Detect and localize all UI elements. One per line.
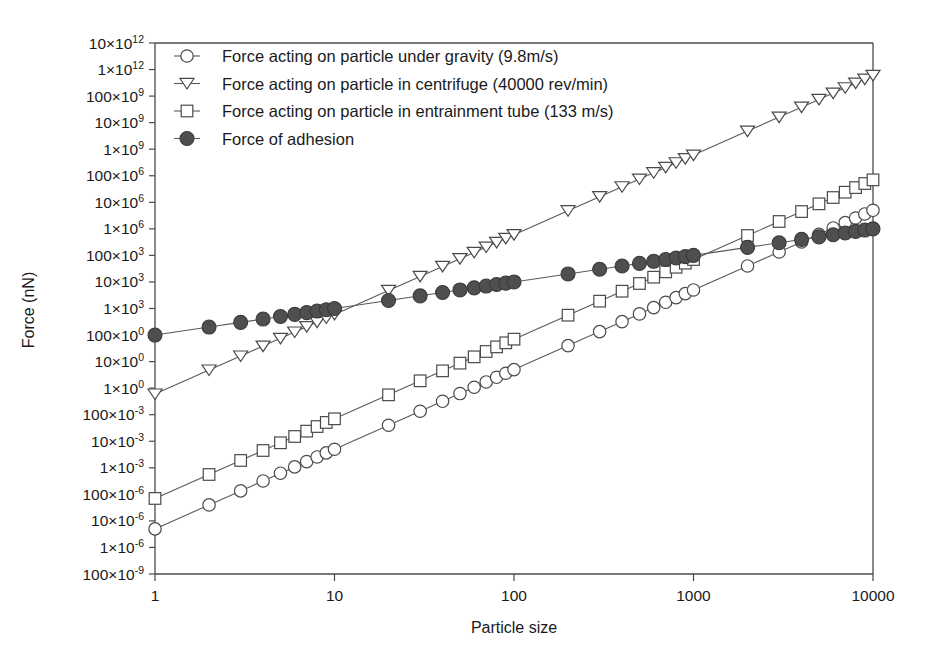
- legend-label: Force acting on particle in entrainment …: [222, 102, 614, 120]
- marker-open-circle: [508, 363, 520, 375]
- marker-open-circle: [328, 443, 340, 455]
- marker-open-square: [827, 192, 839, 204]
- y-tick-label: 10×10-3: [91, 431, 144, 450]
- marker-open-circle: [593, 325, 605, 337]
- marker-open-square: [203, 469, 215, 481]
- y-tick-label: 1×109: [103, 139, 144, 158]
- marker-open-square: [275, 437, 287, 449]
- y-tick-label: 10×106: [95, 192, 145, 211]
- marker-open-square: [289, 431, 301, 443]
- y-tick-label: 10×100: [95, 351, 145, 370]
- marker-open-square: [468, 351, 480, 363]
- x-axis-ticks: 110100100010000: [151, 574, 895, 604]
- y-tick-label: 1×10-6: [100, 537, 144, 556]
- marker-filled-circle: [382, 294, 396, 308]
- y-tick-label: 100×100: [86, 325, 144, 344]
- marker-open-triangle-down: [647, 168, 661, 179]
- marker-open-square: [414, 375, 426, 387]
- marker-open-triangle-down: [148, 389, 162, 400]
- x-tick-label: 1000: [676, 587, 711, 604]
- x-tick-label: 100: [501, 587, 527, 604]
- marker-open-triangle-down: [741, 126, 755, 137]
- marker-open-circle: [274, 467, 286, 479]
- y-tick-label: 1×1012: [97, 59, 144, 78]
- marker-open-triangle-down: [453, 254, 467, 265]
- marker-open-square: [508, 333, 520, 345]
- marker-open-triangle-down: [273, 333, 287, 344]
- legend-entry-2: Force acting on particle in centrifuge (…: [174, 75, 608, 93]
- marker-filled-circle: [561, 267, 575, 281]
- marker-filled-circle: [234, 315, 248, 329]
- x-axis-title: Particle size: [471, 619, 557, 636]
- marker-filled-circle: [273, 309, 287, 323]
- series-1: [149, 204, 879, 535]
- y-tick-label: 100×10-9: [83, 564, 145, 583]
- y-tick-label: 10×103: [95, 271, 145, 290]
- marker-open-square: [796, 206, 808, 218]
- marker-open-circle: [687, 284, 699, 296]
- marker-open-circle: [633, 308, 645, 320]
- marker-open-square: [773, 216, 785, 228]
- y-tick-label: 100×10-6: [83, 484, 145, 503]
- marker-open-circle: [468, 381, 480, 393]
- marker-filled-circle: [741, 240, 755, 254]
- marker-open-square: [634, 278, 646, 290]
- marker-open-square: [257, 445, 269, 457]
- marker-filled-circle: [812, 230, 826, 244]
- marker-filled-circle: [615, 259, 629, 273]
- marker-open-circle: [436, 395, 448, 407]
- marker-filled-circle: [436, 286, 450, 300]
- marker-open-circle: [181, 50, 193, 62]
- legend-label: Force of adhesion: [222, 130, 354, 148]
- marker-open-circle: [203, 499, 215, 511]
- marker-filled-circle: [593, 262, 607, 276]
- y-tick-label: 1×106: [103, 218, 144, 237]
- marker-open-triangle-down: [288, 327, 302, 338]
- marker-open-square: [813, 198, 825, 210]
- marker-open-circle: [867, 204, 879, 216]
- marker-open-circle: [454, 387, 466, 399]
- marker-open-circle: [562, 339, 574, 351]
- y-tick-label: 100×10-3: [83, 404, 145, 423]
- marker-open-square: [594, 295, 606, 307]
- chart-legend: Force acting on particle under gravity (…: [174, 47, 614, 148]
- marker-filled-circle: [180, 132, 194, 146]
- legend-entry-4: Force of adhesion: [174, 130, 354, 148]
- y-tick-label: 1×10-3: [100, 457, 144, 476]
- marker-open-square: [742, 230, 754, 242]
- marker-open-circle: [288, 461, 300, 473]
- marker-open-square: [616, 285, 628, 297]
- chart-canvas: 10×10121×1012100×10910×1091×109100×10610…: [0, 0, 932, 664]
- marker-open-triangle-down: [795, 102, 809, 113]
- y-tick-label: 10×109: [95, 112, 145, 131]
- marker-filled-circle: [507, 275, 521, 289]
- marker-open-triangle-down: [413, 271, 427, 282]
- y-tick-label: 1×100: [103, 378, 144, 397]
- y-tick-label: 100×106: [86, 165, 144, 184]
- marker-filled-circle: [202, 320, 216, 334]
- marker-filled-circle: [148, 328, 162, 342]
- marker-open-circle: [234, 485, 246, 497]
- marker-open-square: [454, 357, 466, 369]
- marker-open-circle: [741, 260, 753, 272]
- marker-open-triangle-down: [772, 112, 786, 123]
- marker-open-triangle-down: [256, 341, 270, 352]
- marker-open-circle: [414, 405, 426, 417]
- marker-open-triangle-down: [467, 247, 481, 258]
- marker-filled-circle: [687, 248, 701, 262]
- y-tick-label: 1×103: [103, 298, 144, 317]
- marker-open-square: [149, 493, 161, 505]
- marker-open-triangle-down: [202, 365, 216, 376]
- marker-open-triangle-down: [561, 206, 575, 217]
- legend-label: Force acting on particle under gravity (…: [222, 47, 559, 65]
- legend-entry-1: Force acting on particle under gravity (…: [174, 47, 559, 65]
- marker-open-circle: [382, 419, 394, 431]
- legend-entry-3: Force acting on particle in entrainment …: [174, 102, 614, 120]
- marker-filled-circle: [413, 289, 427, 303]
- marker-open-triangle-down: [615, 182, 629, 193]
- marker-filled-circle: [632, 256, 646, 270]
- marker-open-triangle-down: [812, 94, 826, 105]
- series-3: [149, 174, 879, 504]
- marker-open-square: [181, 105, 193, 117]
- marker-filled-circle: [772, 236, 786, 250]
